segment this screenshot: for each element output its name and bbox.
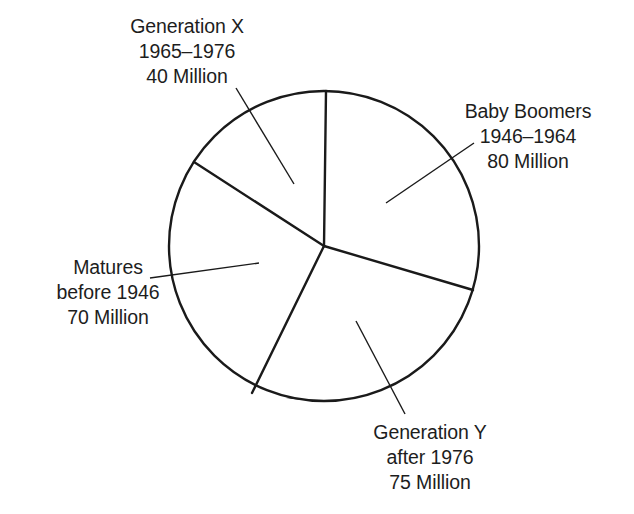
slice-label-baby-boomers-name: Baby Boomers xyxy=(430,99,626,124)
slice-label-generation-y-population: 75 Million xyxy=(330,470,530,495)
slice-label-generation-x-years: 1965–1976 xyxy=(92,39,282,64)
slice-label-generation-x: Generation X 1965–1976 40 Million xyxy=(92,14,282,89)
slice-label-generation-x-name: Generation X xyxy=(92,14,282,39)
slice-label-generation-y-name: Generation Y xyxy=(330,420,530,445)
slice-label-baby-boomers-years: 1946–1964 xyxy=(430,124,626,149)
slice-label-matures-population: 70 Million xyxy=(28,305,188,330)
slice-label-baby-boomers-population: 80 Million xyxy=(430,149,626,174)
slice-label-generation-y-years: after 1976 xyxy=(330,445,530,470)
slice-label-generation-y: Generation Y after 1976 75 Million xyxy=(330,420,530,495)
slice-label-matures-years: before 1946 xyxy=(28,280,188,305)
slice-label-matures-name: Matures xyxy=(28,255,188,280)
pie-chart: Generation X 1965–1976 40 Million Baby B… xyxy=(0,0,634,514)
slice-label-matures: Matures before 1946 70 Million xyxy=(28,255,188,330)
slice-label-baby-boomers: Baby Boomers 1946–1964 80 Million xyxy=(430,99,626,174)
slice-label-generation-x-population: 40 Million xyxy=(92,64,282,89)
